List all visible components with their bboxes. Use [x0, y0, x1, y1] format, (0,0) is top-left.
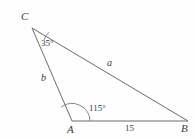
angle-label-a: 115° [89, 104, 106, 113]
vertex-label-b: B [181, 123, 188, 134]
side-label-b: b [41, 73, 46, 83]
vertex-label-c: C [21, 11, 28, 22]
triangle-outline [32, 28, 188, 121]
vertex-label-a: A [67, 124, 74, 135]
side-label-a: a [107, 58, 112, 68]
side-length-label-ab: 15 [125, 124, 134, 133]
angle-label-c: 35° [41, 39, 54, 48]
triangle-drawing [0, 0, 195, 139]
triangle-diagram: C A B a b 15 35° 115° [0, 0, 195, 139]
